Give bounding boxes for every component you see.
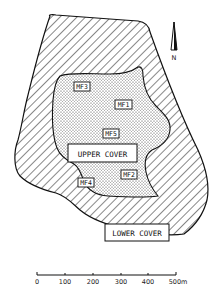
north-arrow-icon: N (171, 22, 177, 62)
site-map: MF3 MF1 MF5 MF2 MF4 UPPER COVER LOWER CO… (0, 0, 221, 302)
site-marker-mf2[interactable]: MF2 (121, 170, 137, 179)
scale-bar: 0 100 200 300 400 500m (35, 272, 187, 286)
scale-tick-500: 500m (169, 278, 188, 286)
site-label-mf2: MF2 (123, 171, 135, 179)
lower-cover-label-box: LOWER COVER (105, 224, 169, 241)
scale-tick-300: 300 (115, 278, 127, 286)
site-label-mf5: MF5 (105, 130, 117, 138)
site-marker-mf3[interactable]: MF3 (74, 82, 90, 91)
upper-cover-label: UPPER COVER (78, 150, 128, 159)
scale-tick-400: 400 (142, 278, 154, 286)
scale-tick-200: 200 (87, 278, 99, 286)
site-marker-mf5[interactable]: MF5 (103, 129, 119, 138)
upper-cover-label-box: UPPER COVER (68, 144, 137, 162)
site-label-mf3: MF3 (76, 83, 88, 91)
site-marker-mf4[interactable]: MF4 (78, 178, 94, 187)
site-marker-mf1[interactable]: MF1 (115, 100, 132, 109)
scale-tick-100: 100 (59, 278, 71, 286)
lower-cover-label: LOWER COVER (112, 229, 162, 238)
site-label-mf1: MF1 (118, 101, 130, 109)
scale-tick-0: 0 (35, 278, 39, 286)
site-label-mf4: MF4 (80, 179, 92, 187)
north-label: N (172, 54, 177, 62)
